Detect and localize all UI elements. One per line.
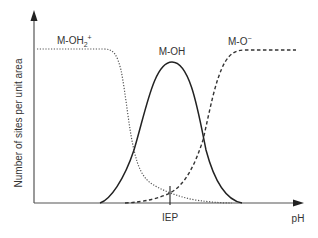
y-axis-arrow-icon xyxy=(31,10,38,21)
curve-m-o-minus xyxy=(125,50,296,203)
label-m-o-minus: M-O− xyxy=(228,35,252,47)
species-distribution-diagram: M-OH2+ M-OH M-O− IEP pH Number of sites … xyxy=(0,0,318,238)
x-axis-label: pH xyxy=(292,213,305,224)
curve-m-oh xyxy=(100,62,242,203)
label-m-oh2-plus: M-OH2+ xyxy=(57,34,92,48)
x-axis-arrow-icon xyxy=(293,200,304,207)
label-m-oh: M-OH xyxy=(159,46,186,57)
y-axis-label: Number of sites per unit area xyxy=(13,58,24,187)
curve-m-oh2-plus xyxy=(37,49,232,203)
label-iep: IEP xyxy=(162,212,178,223)
